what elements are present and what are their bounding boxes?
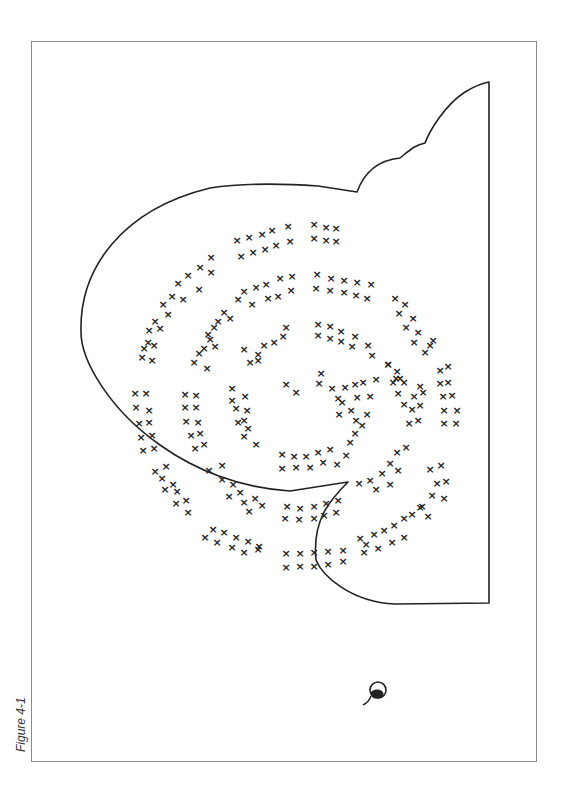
stitch-mark: × — [244, 231, 253, 244]
stitch-mark: × — [295, 547, 304, 560]
stitch-mark: × — [358, 376, 367, 389]
stitch-mark: × — [346, 404, 355, 417]
stitch-mark: × — [287, 270, 296, 283]
stitch-mark: × — [443, 360, 452, 373]
stitch-mark: × — [439, 492, 448, 505]
stitch-mark: × — [439, 417, 448, 430]
stitch-mark: × — [136, 431, 145, 444]
eye-lash — [363, 696, 371, 705]
stitch-mark: × — [131, 401, 140, 414]
stitch-mark: × — [334, 408, 343, 421]
stitch-mark: × — [173, 277, 182, 290]
stitch-mark: × — [248, 246, 257, 259]
stitch-mark: × — [147, 354, 156, 367]
stitch-mark: × — [253, 543, 262, 556]
stitch-mark: × — [225, 312, 234, 325]
stitch-mark: × — [178, 293, 187, 306]
stitch-mark: × — [275, 272, 284, 285]
stitch-mark: × — [312, 268, 321, 281]
stitch-mark: × — [390, 292, 399, 305]
stitch-mark: × — [210, 340, 219, 353]
stitch-mark: × — [428, 334, 437, 347]
stitch-mark: × — [160, 483, 169, 496]
stitch-mark: × — [399, 531, 408, 544]
stitch-mark: × — [171, 497, 180, 510]
stitch-mark: × — [281, 561, 290, 574]
stitch-mark: × — [269, 336, 278, 349]
stitch-mark: × — [441, 475, 450, 488]
stitch-mark: × — [313, 329, 322, 342]
stitch-mark: × — [194, 283, 203, 296]
stitch-mark: × — [191, 401, 200, 414]
stitch-mark: × — [393, 464, 402, 477]
stitch-mark: × — [138, 444, 147, 457]
stitch-mark: × — [404, 417, 413, 430]
stitch-mark: × — [309, 546, 318, 559]
stitch-mark: × — [261, 278, 270, 291]
stitch-mark: × — [352, 276, 361, 289]
stitch-mark: × — [163, 308, 172, 321]
stitch-mark: × — [323, 545, 332, 558]
stitch-mark: × — [149, 339, 158, 352]
stitch-mark: × — [336, 335, 345, 348]
stitch-mark: × — [443, 376, 452, 389]
stitch-mark: × — [212, 536, 221, 549]
snail-figure: ××××××××××××××××××××××××××××××××××××××××… — [0, 0, 568, 798]
stitch-mark: × — [281, 321, 290, 334]
stitch-mark: × — [362, 292, 371, 305]
stitch-mark: × — [409, 336, 418, 349]
stitch-mark: × — [311, 282, 320, 295]
stitch-mark: × — [155, 322, 164, 335]
stitch-mark: × — [354, 477, 363, 490]
stitch-mark: × — [399, 398, 408, 411]
stitch-mark: × — [180, 388, 189, 401]
stitch-mark: × — [294, 513, 303, 526]
stitch-mark: × — [401, 441, 410, 454]
stitch-mark: × — [394, 307, 403, 320]
stitch-mark: × — [295, 560, 304, 573]
stitch-mark: × — [247, 298, 256, 311]
stitch-mark: × — [401, 321, 410, 334]
stitch-mark: × — [243, 422, 252, 435]
stitch-mark: × — [199, 438, 208, 451]
stitch-mark: × — [285, 235, 294, 248]
stitch-mark: × — [331, 506, 340, 519]
stitch-mark: × — [283, 220, 292, 233]
stitch-mark: × — [149, 442, 158, 455]
stitch-mark: × — [423, 510, 432, 523]
stitch-mark: × — [371, 483, 380, 496]
stitch-mark: × — [189, 356, 198, 369]
stitch-mark: × — [236, 250, 245, 263]
stitch-mark: × — [280, 512, 289, 525]
stitch-mark: × — [389, 519, 398, 532]
stitch-mark: × — [147, 429, 156, 442]
stitch-mark: × — [286, 284, 295, 297]
stitch-mark: × — [333, 392, 342, 405]
stitch-mark: × — [325, 332, 334, 345]
stitch-mark: × — [239, 343, 248, 356]
stitch-mark: × — [420, 346, 429, 359]
stitch-mark: × — [366, 278, 375, 291]
stitch-mark: × — [415, 380, 424, 393]
stitch-mark: × — [206, 266, 215, 279]
stitch-mark: × — [383, 358, 392, 371]
stitch-mark: × — [240, 390, 249, 403]
stitch-mark: × — [251, 281, 260, 294]
stitch-mark: × — [341, 449, 350, 462]
stitch-mark: × — [319, 509, 328, 522]
stitch-mark: × — [387, 536, 396, 549]
stitch-mark: × — [371, 373, 380, 386]
stitch-mark: × — [253, 354, 262, 367]
figure-caption: Figure 4-1 — [14, 697, 28, 752]
stitch-mark: × — [309, 560, 318, 573]
stitch-mark: × — [362, 408, 371, 421]
stitch-mark: × — [263, 292, 272, 305]
stitch-mark: × — [251, 438, 260, 451]
stitch-mark: × — [392, 446, 401, 459]
stitch-mark: × — [259, 339, 268, 352]
stitch-mark: × — [323, 558, 332, 571]
stitch-mark: × — [321, 221, 330, 234]
stitch-mark: × — [321, 234, 330, 247]
stitch-mark: × — [439, 404, 448, 417]
stitch-mark: × — [130, 387, 139, 400]
